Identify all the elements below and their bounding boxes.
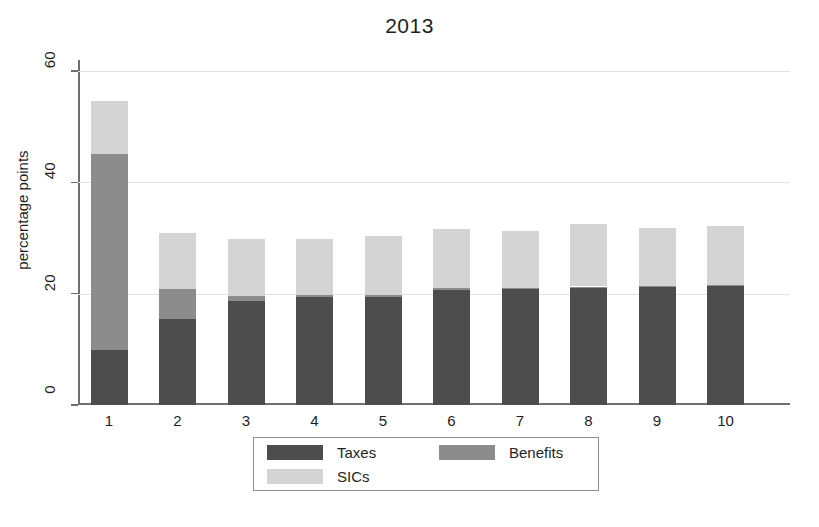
bar-stack[interactable] — [433, 229, 470, 405]
chart-figure: 2013 percentage points 0204060 123456789… — [0, 0, 819, 527]
bar-segment-taxes[interactable] — [228, 301, 265, 405]
bar-segment-taxes[interactable] — [296, 297, 333, 405]
gridline — [78, 182, 790, 183]
y-axis-tick — [71, 182, 78, 183]
x-axis-tick-label: 4 — [295, 412, 335, 429]
bar-stack[interactable] — [639, 228, 676, 406]
bar-segment-benefits[interactable] — [228, 296, 265, 301]
bar-stack[interactable] — [707, 226, 744, 405]
y-axis-tick-label: 40 — [41, 163, 58, 197]
bar-segment-benefits[interactable] — [91, 154, 128, 350]
legend-swatch-icon — [267, 469, 323, 484]
bar-segment-sics[interactable] — [159, 233, 196, 289]
bar-segment-benefits[interactable] — [707, 285, 744, 286]
y-axis-tick — [71, 293, 78, 294]
legend-item[interactable]: Taxes — [267, 444, 376, 461]
bar-segment-sics[interactable] — [502, 231, 539, 288]
bar-stack[interactable] — [228, 239, 265, 405]
bar-segment-sics[interactable] — [639, 228, 676, 286]
bar-segment-benefits[interactable] — [570, 287, 607, 289]
x-axis-tick-label: 7 — [500, 412, 540, 429]
y-axis-tick — [71, 404, 78, 405]
bar-stack[interactable] — [296, 239, 333, 405]
bar-stack[interactable] — [159, 233, 196, 405]
bar-segment-taxes[interactable] — [365, 297, 402, 405]
bar-segment-taxes[interactable] — [91, 350, 128, 405]
chart-legend: TaxesBenefitsSICs — [253, 437, 599, 491]
y-axis-tick-label: 60 — [41, 52, 58, 86]
x-axis-tick-label: 1 — [89, 412, 129, 429]
bar-segment-sics[interactable] — [296, 239, 333, 295]
x-axis-tick-label: 2 — [158, 412, 198, 429]
bar-segment-taxes[interactable] — [639, 287, 676, 405]
x-axis-tick-label: 9 — [637, 412, 677, 429]
bar-segment-benefits[interactable] — [296, 295, 333, 297]
y-axis-line — [78, 60, 80, 405]
legend-swatch-icon — [439, 445, 495, 460]
bar-segment-taxes[interactable] — [707, 286, 744, 405]
x-axis-tick-label: 10 — [706, 412, 746, 429]
y-axis-label-text: percentage points — [14, 120, 31, 300]
bar-segment-benefits[interactable] — [159, 289, 196, 318]
bar-segment-sics[interactable] — [570, 224, 607, 286]
bar-segment-benefits[interactable] — [365, 295, 402, 297]
bar-segment-benefits[interactable] — [502, 288, 539, 290]
y-axis-tick-label: 0 — [41, 386, 58, 420]
legend-label: Benefits — [509, 444, 563, 461]
bar-segment-benefits[interactable] — [433, 288, 470, 290]
y-axis-tick — [71, 70, 78, 71]
bar-segment-taxes[interactable] — [433, 290, 470, 405]
x-axis-tick-label: 5 — [363, 412, 403, 429]
x-axis-tick-label: 3 — [226, 412, 266, 429]
bar-segment-sics[interactable] — [228, 239, 265, 296]
bar-segment-sics[interactable] — [91, 101, 128, 154]
bar-segment-taxes[interactable] — [502, 289, 539, 405]
bar-segment-taxes[interactable] — [159, 319, 196, 405]
legend-item[interactable]: Benefits — [439, 444, 563, 461]
bar-stack[interactable] — [502, 231, 539, 405]
bar-segment-sics[interactable] — [365, 236, 402, 294]
chart-title: 2013 — [0, 14, 819, 38]
bar-stack[interactable] — [91, 101, 128, 405]
legend-label: Taxes — [337, 444, 376, 461]
x-axis-tick-label: 8 — [569, 412, 609, 429]
bar-stack[interactable] — [570, 224, 607, 405]
bar-segment-taxes[interactable] — [570, 288, 607, 405]
legend-label: SICs — [337, 468, 370, 485]
y-axis-label: percentage points — [14, 0, 31, 120]
plot-area: 0204060 12345678910 — [78, 60, 790, 405]
bar-segment-sics[interactable] — [707, 226, 744, 286]
bar-stack[interactable] — [365, 236, 402, 405]
bar-segment-benefits[interactable] — [639, 286, 676, 287]
legend-item[interactable]: SICs — [267, 468, 370, 485]
gridline — [78, 71, 790, 72]
legend-swatch-icon — [267, 445, 323, 460]
bar-segment-sics[interactable] — [433, 229, 470, 289]
x-axis-tick-label: 6 — [432, 412, 472, 429]
y-axis-tick-label: 20 — [41, 274, 58, 308]
